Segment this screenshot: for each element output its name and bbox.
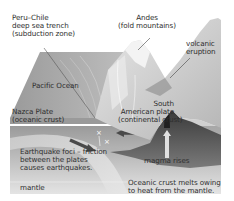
earthquake-label-line-3: causes earthquakes. [20,164,107,172]
earthquake-foci-label: Earthquake foci – friction between the p… [20,148,107,173]
volcano-label-line-2: eruption [186,48,215,56]
trench-label-line-3: (subduction zone) [12,30,75,38]
crust-melts-label: Oceanic crust melts owing to heat from t… [128,179,221,195]
magma-rises-label: magma rises [144,157,189,165]
trench-label: Peru–Chile deep sea trench (subduction z… [12,14,75,39]
volcano-label: volcanic eruption [186,40,215,56]
andes-label-line-2: (fold mountains) [117,22,177,30]
magma-rise-arrow [165,134,169,158]
pacific-ocean-label: Pacific Ocean [32,82,79,90]
andes-label: Andes (fold mountains) [117,14,177,30]
mantle-label: mantle [20,184,45,192]
sa-label-line-3: (continental crust) [118,116,174,124]
melt-label-line-2: to heat from the mantle. [128,187,221,195]
earthquake-focus-1: × [96,129,102,137]
earthquake-focus-2: × [104,138,110,146]
nazca-label-line-2: (oceanic crust) [12,116,64,124]
south-american-plate-label: South American plate (continental crust) [118,100,174,125]
subduction-diagram: × × [0,0,234,201]
nazca-plate-label: Nazca Plate (oceanic crust) [12,108,64,124]
